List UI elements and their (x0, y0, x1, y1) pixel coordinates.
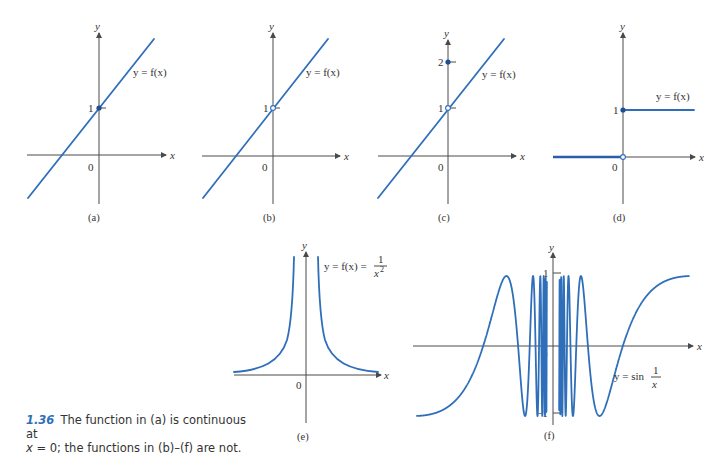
fraction-denominator: x (651, 378, 657, 390)
function-label-prefix: y = f(x) = (324, 260, 367, 273)
panel-f: x y 1 −1 0 y = sin 1 x (f) (413, 241, 702, 442)
origin-label: 0 (612, 161, 618, 173)
caption-number: 1.36 (26, 413, 54, 427)
y-tick-label-1: 1 (438, 102, 444, 114)
function-label: y = f(x) (656, 90, 690, 103)
function-label: y = f(x) (482, 68, 516, 81)
function-curve (28, 39, 154, 198)
x-axis-label: x (343, 150, 349, 162)
open-point (621, 155, 626, 160)
y-tick-label-1: 1 (263, 102, 269, 114)
function-curve (203, 39, 328, 198)
x-axis-label: x (383, 369, 389, 381)
panel-label: (f) (544, 430, 555, 442)
function-label-prefix: y = sin (614, 370, 645, 382)
panel-b: x y 1 0 y = f(x) (b) (202, 20, 349, 224)
fraction-denominator: x (373, 267, 379, 279)
panel-c: x y 2 1 0 y = f(x) (c) (378, 27, 525, 224)
panel-label: (c) (438, 212, 450, 224)
panel-label: (a) (88, 212, 100, 224)
x-axis-label: x (698, 151, 704, 163)
origin-label: 0 (88, 161, 94, 173)
function-label: y = f(x) (133, 66, 167, 79)
left-branch (234, 257, 294, 372)
origin-label: 0 (262, 161, 268, 173)
fraction-numerator: 1 (378, 253, 384, 265)
panel-d: x y 1 0 y = f(x) (d) (553, 20, 704, 224)
origin-label: 0 (438, 161, 444, 173)
figure-caption: 1.36The function in (a) is continuous at… (26, 413, 246, 455)
y-axis-label: y (548, 241, 554, 253)
open-point (446, 106, 451, 111)
x-axis-label: x (169, 149, 175, 161)
y-tick-label-1: 1 (88, 102, 94, 114)
y-axis-label: y (94, 20, 100, 32)
open-point (271, 106, 276, 111)
panel-a: x y 1 0 y = f(x) (a) (27, 20, 175, 224)
filled-point (620, 107, 625, 112)
panel-label: (e) (297, 431, 309, 443)
y-axis-label: y (619, 20, 625, 32)
y-tick-label-2: 2 (438, 56, 444, 68)
y-axis-label: y (443, 27, 449, 39)
caption-line2: = 0; the functions in (b)–(f) are not. (33, 441, 242, 455)
caption-line1: The function in (a) is continuous at (26, 413, 246, 441)
y-axis-label: y (268, 20, 274, 32)
function-label: y = f(x) (306, 66, 340, 79)
y-axis-label: y (301, 239, 307, 251)
panel-label: (b) (263, 212, 276, 224)
figure-1-36: x y 1 0 y = f(x) (a) x y 1 0 y = f(x) (b… (0, 0, 728, 466)
origin-label: 0 (296, 379, 302, 391)
panel-e: x y 0 y = f(x) = 1 x 2 (e) (234, 239, 389, 443)
panel-label: (d) (613, 212, 626, 224)
fraction-numerator: 1 (653, 364, 659, 376)
x-axis-label: x (696, 340, 702, 352)
caption-variable: x (26, 441, 33, 455)
y-tick-label-1: 1 (613, 104, 619, 116)
filled-point (445, 59, 450, 64)
right-branch (318, 257, 378, 372)
filled-point (96, 105, 101, 110)
fraction-exponent: 2 (380, 265, 384, 274)
x-axis-label: x (519, 150, 525, 162)
